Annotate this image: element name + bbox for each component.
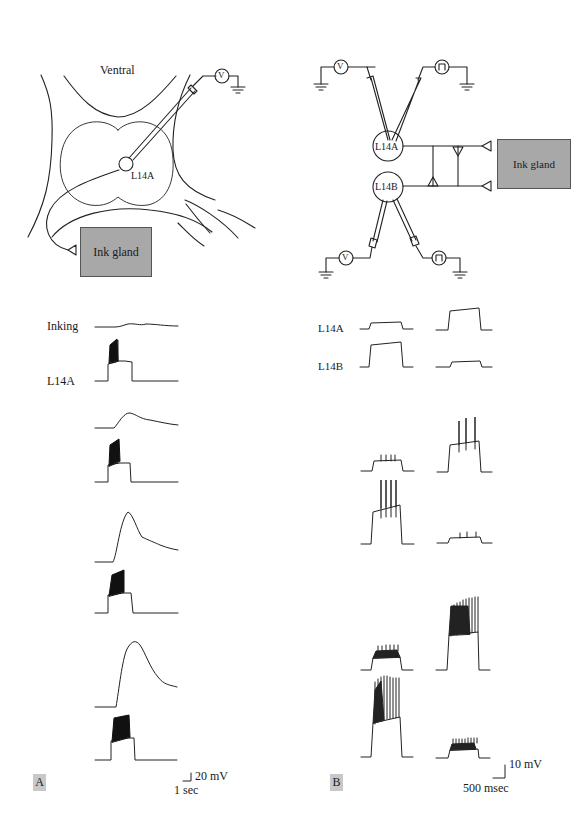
ground-icon-b4: [453, 272, 467, 278]
stimulator-icon-b-bottom: [432, 251, 446, 265]
inking-trace-1: [95, 324, 178, 327]
ink-gland-box-b: Ink gland: [497, 139, 571, 189]
voltmeter-symbol-b-top: V: [337, 62, 344, 71]
neuron-label-l14a: L14A: [131, 170, 154, 181]
burst-1: [109, 339, 118, 363]
panel-tag-a: A: [33, 774, 46, 791]
ink-gland-label-b: Ink gland: [513, 158, 555, 170]
l14a-trace-3: [95, 593, 178, 613]
scale-bar-b: [493, 765, 505, 778]
circuit-diagram: [314, 60, 491, 278]
row-label-l14b-b: L14B: [318, 361, 343, 372]
burst-3: [109, 570, 124, 596]
scale-time-b: 500 msec: [463, 782, 509, 794]
ganglion-outline: [28, 75, 255, 246]
orientation-label: Ventral: [100, 64, 135, 76]
inking-trace-2: [95, 413, 178, 428]
inking-trace-3: [95, 512, 178, 562]
synapse-terminal-icon-b2: [482, 181, 491, 191]
scale-bar-a: [183, 773, 191, 781]
synapse-terminal-icon-a: [68, 245, 76, 255]
panel-a-traces: [95, 324, 191, 781]
ground-icon-b3: [319, 272, 333, 278]
l14a-trace-2: [95, 463, 178, 482]
scale-voltage-a: 20 mV: [195, 770, 228, 782]
panel-tag-b: B: [330, 774, 343, 791]
panel-b-traces: [360, 308, 505, 778]
l14a-trace-1: [95, 340, 178, 381]
synapse-terminal-icon-b1: [482, 141, 491, 151]
scale-voltage-b: 10 mV: [509, 758, 542, 770]
ground-icon-a: [231, 87, 245, 93]
l14a-trace-4: [95, 738, 177, 760]
voltmeter-symbol-a: V: [218, 71, 225, 80]
burst-4: [112, 715, 130, 742]
row-label-l14a-a: L14A: [47, 375, 75, 387]
row-label-l14a-b: L14A: [318, 323, 344, 334]
stimulator-icon-b-top: [435, 60, 449, 74]
voltmeter-symbol-b-bottom: V: [342, 253, 349, 262]
cell-label-l14a: L14A: [375, 141, 398, 152]
ink-gland-label-a: Ink gland: [93, 245, 139, 260]
row-label-inking: Inking: [47, 320, 78, 332]
inking-trace-4: [95, 642, 177, 707]
ink-gland-box-a: Ink gland: [80, 227, 152, 277]
cell-l14a-soma: [119, 157, 133, 171]
burst-2: [109, 439, 120, 466]
cell-label-l14b: L14B: [375, 181, 398, 192]
scale-time-a: 1 sec: [174, 784, 198, 796]
ground-icon-b2: [460, 84, 474, 90]
ground-icon-b1: [314, 84, 328, 90]
figure-canvas: [0, 0, 581, 831]
